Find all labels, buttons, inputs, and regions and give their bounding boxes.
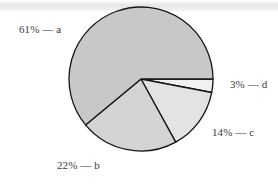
label-a: 61% — a (19, 23, 61, 35)
label-c: 14% — c (212, 126, 254, 138)
label-d: 3% — d (230, 78, 267, 90)
label-b: 22% — b (57, 159, 100, 171)
